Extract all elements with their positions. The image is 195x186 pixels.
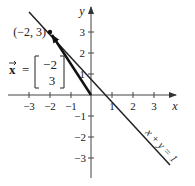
x-axis-label: x <box>171 99 178 113</box>
y-tick-label: −3 <box>74 152 86 164</box>
vector-x-arrow <box>52 35 91 95</box>
x-tick-label: −2 <box>44 100 56 112</box>
vector-definition: x = −2 3 <box>9 56 64 88</box>
y-tick-label: −1 <box>74 110 86 122</box>
line-x-plus-y-equals-1 <box>29 12 170 165</box>
coordinate-diagram: −3 −2 −1 1 2 3 x 1 2 3 −1 −2 −3 y x + y … <box>0 0 195 186</box>
x-tick-label: −3 <box>23 100 35 112</box>
left-bracket-icon <box>35 56 39 88</box>
y-tick-label: 2 <box>80 47 86 59</box>
line-equation-label: x + y = 1 <box>143 125 181 164</box>
point-label: (−2, 3) <box>13 25 46 39</box>
right-bracket-icon <box>60 56 64 88</box>
vector-component-2: 3 <box>49 73 56 88</box>
y-tick-label: −2 <box>74 131 86 143</box>
vector-component-1: −2 <box>43 57 57 72</box>
x-tick-label: 2 <box>130 100 136 112</box>
point-marker <box>48 30 52 34</box>
y-tick-label: 3 <box>80 26 86 38</box>
y-axis-label: y <box>78 4 85 18</box>
x-tick-label: 3 <box>151 100 157 112</box>
equals-sign: = <box>22 62 29 77</box>
